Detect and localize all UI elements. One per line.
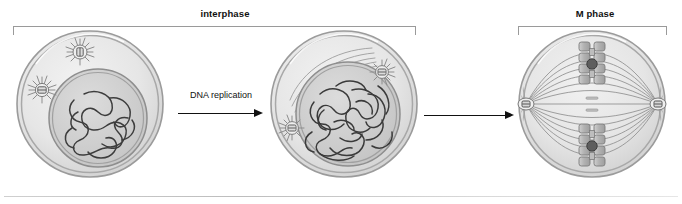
cell-g2-interphase bbox=[268, 28, 420, 180]
arrow-right-icon-dna-replication bbox=[178, 109, 263, 118]
bottom-divider bbox=[4, 196, 678, 197]
cell-cycle-diagram: interphase M phase bbox=[0, 0, 682, 204]
cell-m-phase-metaphase bbox=[512, 28, 672, 180]
arrow-shaft bbox=[178, 113, 255, 114]
arrow-right-icon-entry-to-mitosis bbox=[424, 111, 514, 120]
cell-g1-interphase bbox=[14, 28, 166, 180]
transition-label-dna-replication: DNA replication bbox=[175, 90, 267, 100]
spindle-pole-left bbox=[518, 98, 534, 110]
phase-label-interphase: interphase bbox=[135, 8, 315, 19]
arrow-head bbox=[254, 109, 263, 117]
centromere-icon bbox=[587, 59, 597, 69]
bracket-bar bbox=[13, 26, 416, 27]
nuclear-envelope bbox=[49, 69, 147, 167]
centromere-icon bbox=[587, 141, 597, 151]
phase-label-m-phase: M phase bbox=[520, 8, 670, 19]
bracket-bar bbox=[518, 26, 667, 27]
arrow-shaft bbox=[424, 115, 506, 116]
spindle-pole-right bbox=[650, 98, 666, 110]
